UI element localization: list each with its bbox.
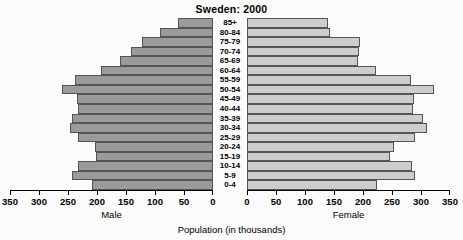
female-x-axis-tick-label: 250: [377, 196, 407, 207]
male-bar-0-4: [92, 180, 213, 190]
female-x-axis-tick-label: 350: [435, 196, 463, 207]
table-row: [10, 114, 213, 124]
female-x-axis-tick: [305, 191, 306, 195]
female-bar-15-19: [247, 152, 390, 162]
male-x-axis-tick: [212, 191, 213, 195]
age-group-axis: 85+80-8475-7970-7465-6960-6455-5950-5445…: [213, 18, 247, 190]
age-group-label: 45-49: [213, 94, 247, 104]
age-group-label: 60-64: [213, 66, 247, 76]
female-x-axis: 050100150200250300350: [247, 190, 450, 196]
male-bar-15-19: [96, 152, 213, 162]
table-row: [247, 123, 450, 133]
age-group-label: 5-9: [213, 171, 247, 181]
female-bar-65-69: [247, 56, 358, 66]
population-pyramid-chart: Sweden: 2000 85+80-8475-7970-7465-6960-6…: [0, 0, 463, 240]
female-axis-caption: Female: [247, 209, 450, 220]
table-row: [10, 66, 213, 76]
male-x-axis-tick: [10, 191, 11, 195]
table-row: [247, 37, 450, 47]
male-bar-group: [10, 18, 213, 190]
female-x-axis-tick: [276, 191, 277, 195]
male-bar-75-79: [142, 37, 213, 47]
age-group-label: 30-34: [213, 123, 247, 133]
age-group-label: 40-44: [213, 104, 247, 114]
female-bar-20-24: [247, 142, 394, 152]
table-row: [247, 161, 450, 171]
table-row: [247, 18, 450, 28]
male-x-axis-tick-label: 0: [198, 196, 228, 207]
male-x-axis-tick: [184, 191, 185, 195]
table-row: [10, 85, 213, 95]
female-bar-60-64: [247, 66, 376, 76]
male-bar-25-29: [78, 133, 213, 143]
male-x-axis-tick: [68, 191, 69, 195]
female-x-axis-tick: [247, 191, 248, 195]
male-x-axis-tick-label: 150: [111, 196, 141, 207]
male-bar-10-14: [78, 161, 213, 171]
table-row: [10, 28, 213, 38]
age-group-label: 75-79: [213, 37, 247, 47]
table-row: [10, 94, 213, 104]
male-plot-panel: [10, 18, 213, 190]
female-bar-group: [247, 18, 450, 190]
table-row: [10, 104, 213, 114]
female-bar-75-79: [247, 37, 360, 47]
age-group-label: 70-74: [213, 47, 247, 57]
female-x-axis-tick-label: 0: [232, 196, 262, 207]
male-x-axis-tick: [155, 191, 156, 195]
age-group-label: 35-39: [213, 114, 247, 124]
age-group-label: 20-24: [213, 142, 247, 152]
male-bar-30-34: [70, 123, 213, 133]
age-group-label: 85+: [213, 18, 247, 28]
male-x-axis: 350300250200150100500: [10, 190, 213, 196]
age-group-label: 50-54: [213, 85, 247, 95]
female-bar-40-44: [247, 104, 413, 114]
table-row: [247, 142, 450, 152]
female-x-axis-tick: [421, 191, 422, 195]
table-row: [10, 56, 213, 66]
table-row: [247, 66, 450, 76]
male-x-axis-tick: [97, 191, 98, 195]
table-row: [247, 114, 450, 124]
female-bar-50-54: [247, 85, 434, 95]
table-row: [247, 133, 450, 143]
male-bar-5-9: [72, 171, 213, 181]
x-axis-title: Population (in thousands): [0, 224, 463, 235]
female-x-axis-tick: [392, 191, 393, 195]
table-row: [10, 123, 213, 133]
male-bar-40-44: [78, 104, 213, 114]
male-bar-55-59: [75, 75, 213, 85]
female-bar-85plus: [247, 18, 328, 28]
female-x-axis-tick-label: 50: [261, 196, 291, 207]
table-row: [10, 180, 213, 190]
male-x-axis-tick-label: 300: [24, 196, 54, 207]
table-row: [247, 75, 450, 85]
age-group-label: 10-14: [213, 161, 247, 171]
male-x-axis-tick-label: 350: [0, 196, 25, 207]
male-bar-45-49: [77, 94, 213, 104]
female-bar-5-9: [247, 171, 415, 181]
age-group-label: 55-59: [213, 75, 247, 85]
female-bar-35-39: [247, 114, 423, 124]
age-group-label: 25-29: [213, 133, 247, 143]
table-row: [247, 104, 450, 114]
male-x-axis-tick-label: 250: [53, 196, 83, 207]
male-bar-85plus: [178, 18, 213, 28]
female-x-axis-tick: [334, 191, 335, 195]
female-bar-55-59: [247, 75, 411, 85]
table-row: [247, 171, 450, 181]
table-row: [247, 47, 450, 57]
table-row: [10, 152, 213, 162]
male-x-axis-tick-label: 200: [82, 196, 112, 207]
male-bar-50-54: [62, 85, 213, 95]
table-row: [10, 37, 213, 47]
female-bar-80-84: [247, 28, 330, 38]
male-bar-20-24: [95, 142, 213, 152]
female-x-axis-tick-label: 100: [290, 196, 320, 207]
male-x-axis-tick-label: 50: [169, 196, 199, 207]
male-x-axis-tick-label: 100: [140, 196, 170, 207]
female-x-axis-tick-label: 300: [406, 196, 436, 207]
male-x-axis-tick: [39, 191, 40, 195]
female-bar-0-4: [247, 180, 377, 190]
table-row: [247, 85, 450, 95]
